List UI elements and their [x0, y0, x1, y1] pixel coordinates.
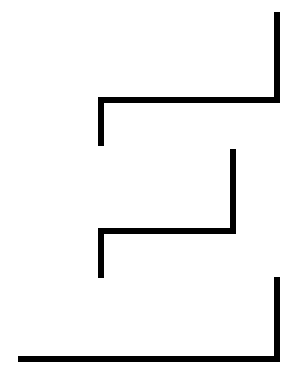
- canvas-background: [0, 0, 297, 387]
- line-drawing-figure: [0, 0, 297, 387]
- drawing-canvas: [0, 0, 297, 387]
